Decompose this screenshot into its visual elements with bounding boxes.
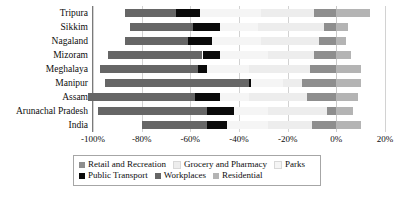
bar-segment [249,79,251,87]
legend-swatch-icon [79,173,85,179]
bar-segment [207,107,234,115]
category-label: Sikkim [0,20,88,34]
value-axis-tick-label: -100% [73,133,113,146]
bar-segment [142,121,208,129]
value-axis-labels: -100%-80%-60%-40%-20%0%20% [93,133,385,146]
legend-label: Workplaces [164,170,206,181]
category-label: Manipur [0,76,88,90]
bar-segment [207,121,226,129]
legend-label: Public Transport [88,170,148,181]
bar-row [93,20,385,34]
bar-row [93,62,385,76]
bar-segment [249,65,310,73]
bar-segment [336,9,370,17]
bar-segment [283,79,302,87]
category-label: Mizoram [0,48,88,62]
bar-segment [251,79,283,87]
bar-segment [176,9,200,17]
bar-segment [258,23,324,31]
bar-segment [336,79,360,87]
value-axis-tick-label: 20% [365,133,394,146]
category-label: Meghalaya [0,62,88,76]
bar-segment [336,51,351,59]
legend-swatch-icon [79,162,85,168]
bar-segment [324,23,336,31]
value-axis-tick-label: 0% [316,133,356,146]
value-axis-tick-label: -20% [268,133,308,146]
legend-item[interactable]: Parks [274,159,305,170]
bar-segment [336,121,360,129]
legend-row-top: Retail and RecreationGrocery and Pharmac… [79,159,315,170]
bar-segment [336,65,360,73]
legend-label: Parks [285,159,305,170]
bar-segment [312,121,336,129]
bar-row [93,34,385,48]
legend-item[interactable]: Grocery and Pharmacy [173,159,267,170]
legend-label: Grocery and Pharmacy [184,159,267,170]
gridline-20 [385,6,386,132]
bar-row [93,118,385,132]
category-label: India [0,118,88,132]
bar-segment [203,51,220,59]
bar-segment [261,9,315,17]
bar-segment [314,51,336,59]
bar-segment [307,93,336,101]
bar-segment [200,9,261,17]
bar-segment [108,51,203,59]
bar-segment [336,107,353,115]
bar-segment [268,51,314,59]
bar-row [93,76,385,90]
legend-item[interactable]: Public Transport [79,170,148,181]
bar-segment [319,37,336,45]
bar-segment [310,65,337,73]
bar-segment [268,121,312,129]
legend-label: Retail and Recreation [88,159,166,170]
bar-segment [198,65,208,73]
legend-row-bottom: Public TransportWorkplacesResidential [79,170,315,181]
bar-segment [227,121,268,129]
bar-segment [249,93,307,101]
legend-label: Residential [222,170,263,181]
bar-segment [88,93,195,101]
bar-segment [100,65,197,73]
bar-segment [336,93,358,101]
bar-segment [212,37,261,45]
bar-segment [261,37,319,45]
category-axis-labels: TripuraSikkimNagalandMizoramMeghalayaMan… [0,6,88,132]
legend-swatch-icon [173,161,181,169]
legend-swatch-icon [274,161,282,169]
legend-item[interactable]: Retail and Recreation [79,159,166,170]
plot-area [93,6,385,132]
mobility-stacked-bar-chart: TripuraSikkimNagalandMizoramMeghalayaMan… [0,0,394,199]
legend-swatch-icon [155,173,161,179]
bar-segment [336,37,346,45]
bar-segment [234,107,268,115]
category-label: Arunachal Pradesh [0,104,88,118]
bar-segment [220,93,249,101]
bar-segment [98,107,208,115]
value-axis-tick-label: -60% [170,133,210,146]
bar-row [93,90,385,104]
bar-segment [220,51,269,59]
value-axis-tick-label: -80% [122,133,162,146]
bar-segment [125,9,176,17]
legend-swatch-icon [213,173,219,179]
bar-segment [195,93,219,101]
category-label: Assam [0,90,88,104]
bar-segment [105,79,249,87]
bar-segment [130,23,193,31]
legend-item[interactable]: Residential [213,170,263,181]
bar-segment [314,9,336,17]
chart-legend: Retail and RecreationGrocery and Pharmac… [73,155,321,186]
category-label: Tripura [0,6,88,20]
bar-row [93,6,385,20]
bar-segment [327,107,337,115]
bar-segment [207,65,248,73]
bar-segment [188,37,212,45]
category-label: Nagaland [0,34,88,48]
legend-item[interactable]: Workplaces [155,170,206,181]
bar-segment [268,107,326,115]
bar-segment [220,23,259,31]
bar-segment [125,37,188,45]
bar-segment [336,23,348,31]
